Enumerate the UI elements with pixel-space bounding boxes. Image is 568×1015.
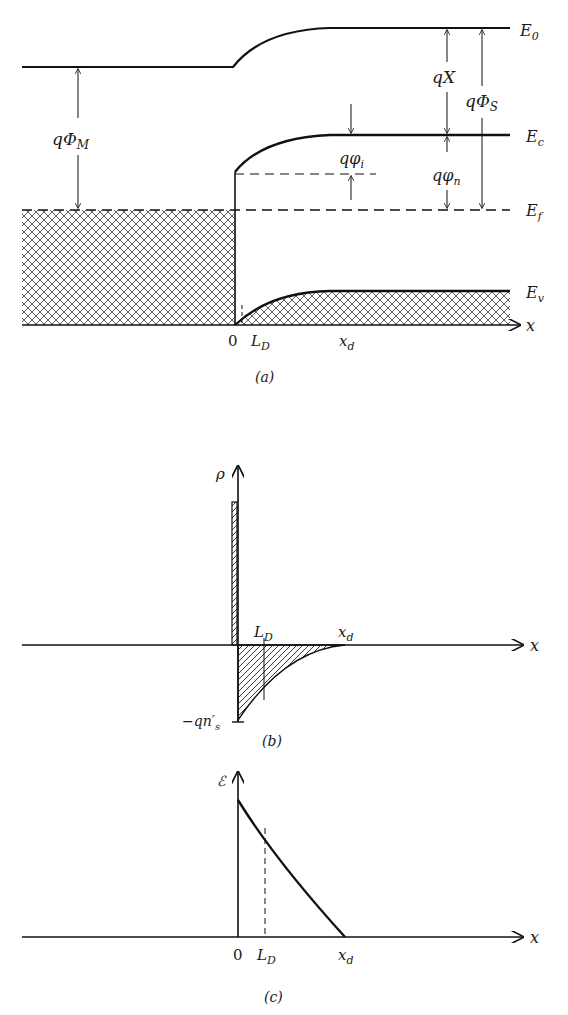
qphis-label: qΦS	[465, 91, 498, 114]
metal-filled-states	[22, 210, 235, 325]
qphii-label: qφi	[339, 149, 364, 171]
ev-label: Ev	[525, 283, 545, 305]
xd-label-a: xd	[339, 332, 355, 353]
zero-label-c: 0	[233, 946, 243, 964]
panel-c: ℰ x 0 LD xd (c)	[22, 772, 539, 1005]
x-label-a: x	[526, 316, 535, 335]
panel-a: qΦM qX qΦS qφi qφn E0 Ec Ef Ev x 0 LD xd…	[22, 21, 545, 385]
conduction-band-line	[235, 135, 510, 172]
qphim-label: qΦM	[52, 129, 90, 152]
caption-c: (c)	[264, 989, 283, 1005]
neg-charge-label: −qn′s	[182, 713, 220, 732]
zero-label-a: 0	[228, 332, 238, 350]
ld-label-b: LD	[253, 623, 273, 644]
ld-label-c: LD	[256, 946, 276, 967]
schottky-band-diagram: qΦM qX qΦS qφi qφn E0 Ec Ef Ev x 0 LD xd…	[0, 0, 568, 1015]
caption-a: (a)	[255, 369, 274, 385]
xd-label-b: xd	[338, 623, 354, 644]
valence-filled-states	[235, 291, 510, 325]
depletion-charge-region	[238, 645, 345, 720]
caption-b: (b)	[262, 733, 282, 749]
ef-label: Ef	[525, 201, 544, 223]
qchi-label: qX	[432, 67, 456, 87]
vacuum-level-line	[22, 28, 510, 67]
panel-b: ρ x LD xd −qn′s (b)	[22, 465, 539, 749]
x-label-c: x	[530, 928, 539, 947]
surface-charge-bar	[232, 502, 237, 645]
qphin-label: qφn	[432, 166, 461, 188]
field-label: ℰ	[217, 773, 227, 789]
x-label-b: x	[530, 636, 539, 655]
ec-label: Ec	[525, 127, 544, 149]
field-curve	[238, 800, 345, 937]
ld-label-a: LD	[250, 332, 270, 353]
xd-label-c: xd	[338, 946, 354, 967]
e0-label: E0	[519, 21, 539, 43]
rho-label: ρ	[215, 465, 225, 483]
